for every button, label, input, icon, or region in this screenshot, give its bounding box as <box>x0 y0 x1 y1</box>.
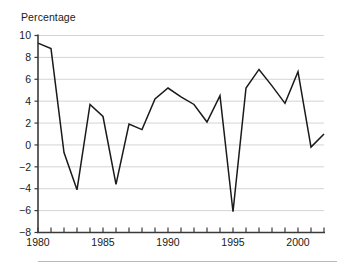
x-tick-label-1985: 1985 <box>91 236 115 248</box>
x-tick-label-1990: 1990 <box>156 236 180 248</box>
y-tick-label--2: −2 <box>19 161 31 173</box>
x-axis <box>37 228 325 233</box>
x-tick-label-1995: 1995 <box>221 236 245 248</box>
y-tick-label-2: 2 <box>25 117 31 129</box>
y-tick-label--4: −4 <box>19 182 31 194</box>
y-tick-label-4: 4 <box>25 95 31 107</box>
percentage-line-chart: Percentage −8−6−4−20246810 1980198519901… <box>0 0 337 267</box>
series-percentage-line <box>38 43 324 212</box>
x-tick-label-1980: 1980 <box>26 236 50 248</box>
y-tick-label-8: 8 <box>25 51 31 63</box>
y-tick-label-0: 0 <box>25 139 31 151</box>
y-tick-labels: −8−6−4−20246810 <box>19 29 31 238</box>
data-series-line <box>38 43 324 212</box>
gridlines <box>38 36 324 211</box>
y-axis <box>35 35 39 233</box>
footer-divider <box>38 261 337 262</box>
y-tick-label-6: 6 <box>25 73 31 85</box>
x-tick-labels: 19801985199019952000 <box>26 236 310 248</box>
x-tick-label-2000: 2000 <box>286 236 310 248</box>
y-tick-label-10: 10 <box>19 29 31 41</box>
plot-area: −8−6−4−20246810 19801985199019952000 <box>0 0 337 267</box>
y-tick-label--6: −6 <box>19 204 31 216</box>
